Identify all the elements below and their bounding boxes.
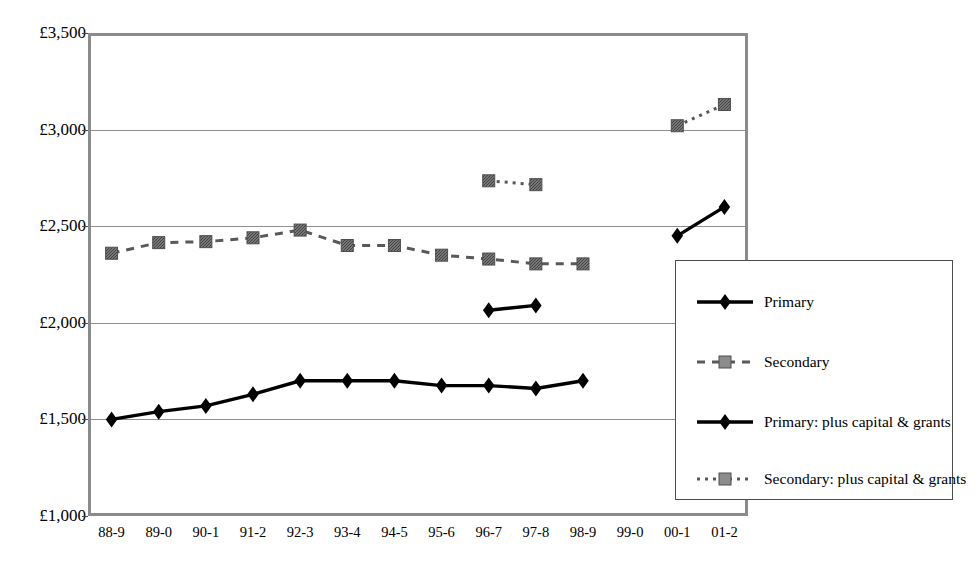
y-axis-tick-mark [82, 323, 88, 324]
legend-label: Secondary [764, 349, 829, 375]
gridline [91, 323, 745, 324]
y-axis-tick-mark [82, 419, 88, 420]
legend-item-4[interactable]: Secondary: plus capital & grants [676, 466, 954, 492]
legend-marker-icon [694, 289, 756, 315]
legend-item-1[interactable]: Primary [676, 289, 954, 315]
gridline [91, 130, 745, 131]
y-axis-tick-mark [82, 226, 88, 227]
legend-label: Primary: plus capital & grants [764, 409, 951, 435]
legend-item-3[interactable]: Primary: plus capital & grants [676, 409, 954, 435]
legend-marker-icon [694, 409, 756, 435]
legend-label: Secondary: plus capital & grants [764, 466, 966, 492]
chart-legend: PrimarySecondaryPrimary: plus capital & … [675, 260, 953, 500]
y-axis-tick-label: £1,000 [4, 507, 86, 524]
y-axis: £3,500£3,000£2,500£2,000£1,500£1,000 [0, 0, 86, 570]
legend-marker-icon [694, 466, 756, 492]
y-axis-tick-mark [82, 33, 88, 34]
y-axis-tick-label: £3,500 [4, 24, 86, 41]
legend-label: Primary [764, 289, 814, 315]
y-axis-tick-label: £2,500 [4, 217, 86, 234]
page-text-bleed [0, 0, 978, 14]
y-axis-tick-label: £1,500 [4, 410, 86, 427]
y-axis-tick-label: £2,000 [4, 314, 86, 331]
y-axis-tick-mark [82, 516, 88, 517]
plot-area [88, 33, 748, 516]
gridline [91, 419, 745, 420]
y-axis-tick-label: £3,000 [4, 121, 86, 138]
chart-figure: £3,500£3,000£2,500£2,000£1,500£1,000 88-… [0, 0, 978, 570]
legend-item-2[interactable]: Secondary [676, 349, 954, 375]
legend-marker-icon [694, 349, 756, 375]
x-axis-tick-label: 01-2 [696, 524, 752, 540]
y-axis-tick-mark [82, 130, 88, 131]
gridline [91, 226, 745, 227]
